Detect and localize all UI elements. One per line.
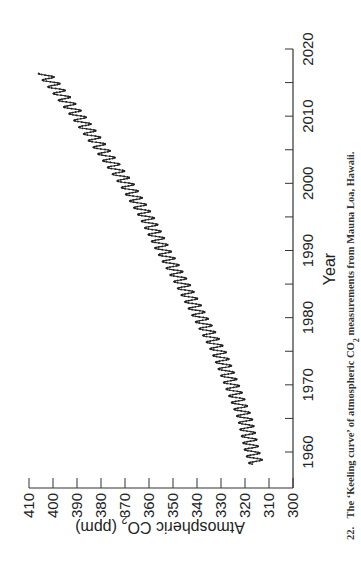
data-point <box>229 364 231 366</box>
data-point <box>209 336 211 338</box>
data-point <box>142 220 144 222</box>
data-point <box>149 210 151 212</box>
data-point <box>196 321 198 323</box>
data-point <box>246 441 248 443</box>
data-point <box>199 310 201 312</box>
data-point <box>251 447 253 449</box>
data-point <box>151 225 153 227</box>
data-point <box>216 346 218 348</box>
data-point <box>93 129 95 131</box>
data-point <box>107 151 109 153</box>
data-point <box>148 222 150 224</box>
data-point <box>259 452 261 454</box>
data-point <box>195 303 197 305</box>
data-point <box>219 346 221 348</box>
data-point <box>62 89 64 91</box>
data-point <box>191 309 193 311</box>
data-point <box>59 91 61 93</box>
data-point <box>135 190 137 192</box>
data-point <box>88 122 90 124</box>
data-point <box>176 272 178 274</box>
data-point <box>148 233 150 235</box>
data-point <box>234 384 236 386</box>
data-point <box>225 366 227 368</box>
data-point <box>209 340 211 342</box>
data-point <box>220 344 222 346</box>
data-point <box>53 76 55 78</box>
data-point <box>183 279 185 281</box>
data-point <box>141 197 143 199</box>
data-point <box>222 360 224 362</box>
data-point <box>128 185 130 187</box>
data-point <box>212 332 214 334</box>
data-point <box>176 263 178 265</box>
data-point <box>195 306 197 308</box>
data-point <box>46 80 48 82</box>
data-point <box>247 417 249 419</box>
caption-subscript: 2 <box>352 338 361 342</box>
data-point <box>132 189 134 191</box>
data-point <box>158 230 160 232</box>
data-point <box>134 206 136 208</box>
data-point <box>213 343 215 345</box>
data-point <box>91 141 93 143</box>
data-point <box>177 276 179 278</box>
data-point <box>167 244 169 246</box>
data-point <box>90 123 92 125</box>
data-point <box>61 98 63 100</box>
data-point <box>177 270 179 272</box>
data-point <box>75 111 77 113</box>
data-point <box>248 424 250 426</box>
data-point <box>173 275 175 277</box>
data-point <box>209 333 211 335</box>
data-point <box>245 448 247 450</box>
data-point <box>131 183 133 185</box>
data-point <box>117 179 119 181</box>
caption-text-before: The ‘Keeling curve’ of atmospheric CO <box>345 342 356 518</box>
data-point <box>93 146 95 148</box>
data-point <box>67 107 69 109</box>
data-point <box>117 164 119 166</box>
data-point <box>154 225 156 227</box>
data-point <box>86 132 88 134</box>
data-point <box>158 232 160 234</box>
data-point <box>169 268 171 270</box>
data-point <box>135 191 137 193</box>
data-point <box>242 435 244 437</box>
data-point <box>216 356 218 358</box>
data-point <box>221 350 223 352</box>
data-point <box>145 226 147 228</box>
data-point <box>195 309 197 311</box>
data-point <box>115 174 117 176</box>
data-point <box>105 155 107 157</box>
data-point <box>144 209 146 211</box>
data-point <box>87 134 89 136</box>
data-point <box>93 131 95 133</box>
data-point <box>60 94 62 96</box>
data-point <box>132 192 134 194</box>
data-point <box>128 188 130 190</box>
data-point <box>174 280 176 282</box>
data-point <box>69 96 71 98</box>
data-point <box>206 323 208 325</box>
data-point <box>217 337 219 339</box>
data-point <box>250 426 252 428</box>
data-point <box>236 386 238 388</box>
data-point <box>169 250 171 252</box>
data-point <box>103 159 105 161</box>
data-point <box>74 119 76 121</box>
data-point <box>239 421 241 423</box>
data-point <box>245 434 247 436</box>
data-point <box>65 101 67 103</box>
data-point <box>152 223 154 225</box>
data-point <box>165 260 167 262</box>
data-point <box>165 243 167 245</box>
data-point <box>228 358 230 360</box>
data-point <box>85 116 87 118</box>
data-point <box>224 376 226 378</box>
data-point <box>239 397 241 399</box>
data-point <box>254 438 256 440</box>
x-tick-label: 1980 <box>299 301 316 334</box>
data-point <box>206 329 208 331</box>
data-point <box>194 299 196 301</box>
